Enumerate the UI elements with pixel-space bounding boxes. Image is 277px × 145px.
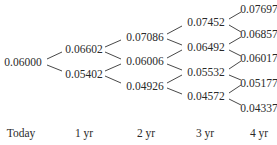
node-4yr-0: 0.07697 (240, 3, 277, 15)
node-1yr-up: 0.06602 (65, 43, 102, 55)
period-label-1yr: 1 yr (75, 127, 93, 139)
period-label-3yr: 3 yr (196, 127, 214, 139)
node-3yr-0: 0.07452 (187, 16, 224, 28)
node-4yr-3: 0.05177 (240, 77, 277, 89)
tree-edges (0, 0, 277, 145)
period-label-4yr: 4 yr (250, 127, 268, 139)
node-1yr-down: 0.05402 (65, 68, 102, 80)
period-label-today: Today (7, 127, 36, 139)
node-3yr-2: 0.05532 (187, 66, 224, 78)
period-label-2yr: 2 yr (137, 127, 155, 139)
node-2yr-uu: 0.07086 (126, 31, 163, 43)
node-4yr-2: 0.06017 (240, 52, 277, 64)
node-2yr-ud: 0.06006 (126, 55, 163, 67)
binomial-tree-diagram: 0.06000 0.06602 0.05402 0.07086 0.06006 … (0, 0, 277, 145)
node-2yr-dd: 0.04926 (126, 80, 163, 92)
node-3yr-3: 0.04572 (187, 90, 224, 102)
node-4yr-1: 0.06857 (240, 28, 277, 40)
node-4yr-4: 0.04337 (240, 102, 277, 114)
node-3yr-1: 0.06492 (187, 41, 224, 53)
node-today: 0.06000 (4, 56, 41, 68)
